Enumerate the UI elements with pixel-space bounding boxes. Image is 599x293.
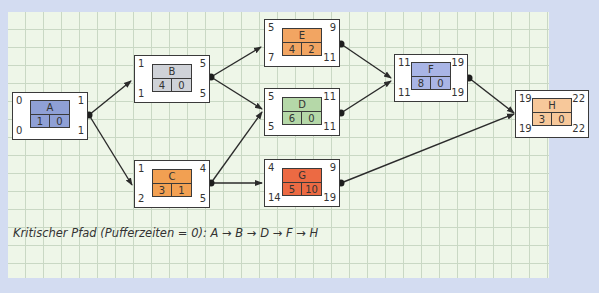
node-c[interactable]: 1 4 2 5 C 3 1 — [134, 160, 210, 208]
critical-path-caption: Kritischer Pfad (Pufferzeiten = 0): A → … — [13, 226, 318, 240]
node-e-box: E 4 2 — [282, 28, 322, 56]
edge-g-h — [341, 114, 514, 183]
node-d-faz: 5 — [268, 92, 274, 102]
node-g-name: G — [283, 169, 321, 183]
edge-c-d — [211, 112, 262, 183]
node-f-fez: 19 — [451, 58, 464, 68]
node-b-duration: 4 — [153, 79, 172, 92]
node-e-sez: 11 — [323, 53, 336, 63]
node-d-buffer: 0 — [302, 112, 321, 125]
node-f-duration: 8 — [412, 77, 431, 90]
node-b-sez: 5 — [200, 89, 206, 99]
node-a-name: A — [31, 101, 69, 115]
edge-a-b — [89, 81, 131, 115]
node-h-saz: 19 — [519, 124, 532, 134]
node-h[interactable]: 19 22 19 22 H 3 0 — [515, 90, 589, 138]
node-a-duration: 1 — [31, 115, 50, 128]
node-e[interactable]: 5 9 7 11 E 4 2 — [264, 19, 340, 67]
node-g-faz: 4 — [268, 163, 274, 173]
node-g-sez: 19 — [323, 193, 336, 203]
node-a-saz: 0 — [16, 126, 22, 136]
node-b-saz: 1 — [138, 89, 144, 99]
node-g-duration: 5 — [283, 183, 302, 196]
node-f-name: F — [412, 63, 450, 77]
node-a-fez: 1 — [78, 96, 84, 106]
node-a-faz: 0 — [16, 96, 22, 106]
node-c-fez: 4 — [200, 164, 206, 174]
node-d-fez: 11 — [323, 92, 336, 102]
node-f-faz: 11 — [398, 58, 411, 68]
node-a[interactable]: 0 1 0 1 A 1 0 — [12, 92, 88, 140]
edge-a-c — [89, 115, 132, 185]
node-c-buffer: 1 — [172, 184, 191, 197]
node-g-buffer: 10 — [302, 183, 321, 196]
node-h-duration: 3 — [533, 113, 552, 126]
edge-d-f — [341, 81, 391, 113]
node-h-sez: 22 — [572, 124, 585, 134]
node-h-buffer: 0 — [552, 113, 571, 126]
node-a-buffer: 0 — [50, 115, 69, 128]
node-h-fez: 22 — [572, 94, 585, 104]
node-d-duration: 6 — [283, 112, 302, 125]
node-h-box: H 3 0 — [532, 98, 572, 126]
node-g-saz: 14 — [268, 193, 281, 203]
node-c-name: C — [153, 170, 191, 184]
node-f-sez: 19 — [451, 88, 464, 98]
node-b-fez: 5 — [200, 59, 206, 69]
node-d-sez: 11 — [323, 122, 336, 132]
node-e-faz: 5 — [268, 23, 274, 33]
node-g-box: G 5 10 — [282, 168, 322, 196]
node-e-buffer: 2 — [302, 43, 321, 56]
node-c-box: C 3 1 — [152, 169, 192, 197]
node-c-sez: 5 — [200, 194, 206, 204]
node-b-buffer: 0 — [172, 79, 191, 92]
node-a-box: A 1 0 — [30, 100, 70, 128]
node-f-saz: 11 — [398, 88, 411, 98]
node-e-fez: 9 — [330, 23, 336, 33]
node-f-box: F 8 0 — [411, 62, 451, 90]
node-g[interactable]: 4 9 14 19 G 5 10 — [264, 159, 340, 207]
edge-b-e — [211, 47, 261, 77]
node-h-faz: 19 — [519, 94, 532, 104]
node-c-saz: 2 — [138, 194, 144, 204]
node-d[interactable]: 5 11 5 11 D 6 0 — [264, 88, 340, 136]
node-b[interactable]: 1 5 1 5 B 4 0 — [134, 55, 210, 103]
node-e-duration: 4 — [283, 43, 302, 56]
node-b-faz: 1 — [138, 59, 144, 69]
node-b-name: B — [153, 65, 191, 79]
node-d-name: D — [283, 98, 321, 112]
node-c-duration: 3 — [153, 184, 172, 197]
node-d-saz: 5 — [268, 122, 274, 132]
node-b-box: B 4 0 — [152, 64, 192, 92]
node-h-name: H — [533, 99, 571, 113]
edge-b-d — [211, 77, 262, 109]
node-e-name: E — [283, 29, 321, 43]
node-c-faz: 1 — [138, 164, 144, 174]
edge-f-h — [469, 78, 514, 113]
node-f-buffer: 0 — [431, 77, 450, 90]
node-e-saz: 7 — [268, 53, 274, 63]
node-d-box: D 6 0 — [282, 97, 322, 125]
edge-e-f — [341, 44, 391, 78]
node-f[interactable]: 11 19 11 19 F 8 0 — [394, 54, 468, 102]
node-a-sez: 1 — [78, 126, 84, 136]
node-g-fez: 9 — [330, 163, 336, 173]
